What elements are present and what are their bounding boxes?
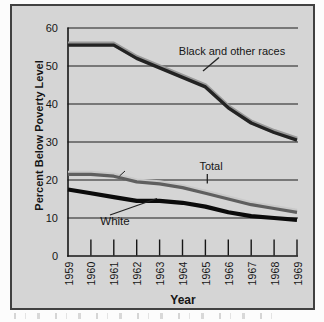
x-axis-title: Year — [123, 293, 243, 307]
annotation-black-and-other-races-label: Black and other races — [171, 45, 293, 57]
x-tick-label-1966: 1966 — [223, 258, 234, 288]
y-tick-label-20: 20 — [26, 174, 58, 186]
x-tick-label-1968: 1968 — [269, 258, 280, 288]
annotation-white-label: White — [85, 215, 145, 227]
x-tick-label-1961: 1961 — [109, 258, 120, 288]
x-tick-label-1964: 1964 — [178, 258, 189, 288]
series-highlight-black-and-other-races — [68, 44, 297, 139]
x-tick-label-1965: 1965 — [200, 258, 211, 288]
x-tick-label-1969: 1969 — [292, 258, 303, 288]
annotation-total-label: Total — [181, 160, 241, 172]
cut-off-caption-fragment — [14, 313, 282, 319]
leader-black-and-other-races — [203, 58, 219, 72]
y-tick-label-0: 0 — [26, 250, 58, 262]
x-tick-label-1959: 1959 — [63, 258, 74, 288]
y-tick-label-60: 60 — [26, 22, 58, 34]
y-tick-label-10: 10 — [26, 212, 58, 224]
x-tick-label-1960: 1960 — [86, 258, 97, 288]
x-tick-label-1963: 1963 — [155, 258, 166, 288]
y-tick-label-30: 30 — [26, 136, 58, 148]
x-tick-label-1967: 1967 — [246, 258, 257, 288]
x-tick-label-1962: 1962 — [132, 258, 143, 288]
y-tick-label-40: 40 — [26, 98, 58, 110]
y-tick-label-50: 50 — [26, 60, 58, 72]
